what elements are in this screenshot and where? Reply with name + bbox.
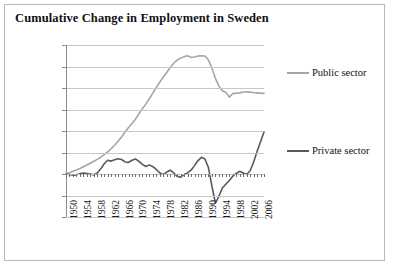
x-axis-minor-tick (104, 174, 105, 177)
x-axis-minor-tick (188, 174, 189, 177)
x-axis-tick-label: 1970 (138, 200, 148, 219)
x-axis-minor-tick (177, 174, 178, 177)
x-axis-minor-tick (247, 174, 248, 177)
legend-color-swatch (287, 72, 309, 74)
x-axis-tick-label: 1962 (111, 200, 121, 219)
x-axis-tick-label: 1950 (69, 200, 79, 219)
plot-area-wrapper: 120000010000008000006000004000002000000-… (66, 45, 264, 217)
x-axis-minor-tick (132, 174, 133, 177)
x-axis-minor-tick (167, 174, 168, 177)
gridline (66, 153, 264, 154)
y-axis-tick-mark (62, 153, 66, 154)
x-axis-minor-tick (184, 174, 185, 177)
gridline (66, 131, 264, 132)
legend-item[interactable]: Private sector (287, 145, 369, 156)
x-axis-minor-tick (125, 174, 126, 177)
x-axis-minor-tick (80, 174, 81, 177)
x-axis-tick-label: 1982 (180, 200, 190, 219)
series-line (66, 56, 264, 174)
y-axis-tick-mark (62, 67, 66, 68)
y-axis-tick-mark (62, 174, 66, 175)
x-axis-minor-tick (208, 174, 209, 177)
x-axis-tick-label: 1974 (152, 200, 162, 219)
x-axis-minor-tick (236, 174, 237, 177)
gridline (66, 217, 264, 218)
x-axis-minor-tick (97, 174, 98, 177)
x-axis-minor-tick (129, 174, 130, 177)
y-axis-line (66, 45, 67, 217)
x-axis-minor-tick (233, 174, 234, 177)
x-axis-minor-tick (90, 174, 91, 177)
y-axis-tick-mark (62, 110, 66, 111)
x-axis-minor-tick (250, 174, 251, 177)
x-axis-minor-tick (87, 174, 88, 177)
x-axis-minor-tick (195, 174, 196, 177)
y-axis-tick-mark (62, 196, 66, 197)
x-axis-minor-tick (66, 174, 67, 177)
x-axis-minor-tick (146, 174, 147, 177)
x-axis-minor-tick (219, 174, 220, 177)
x-axis-minor-tick (160, 174, 161, 177)
x-axis-minor-tick (101, 174, 102, 177)
x-axis-minor-tick (163, 174, 164, 177)
gridline (66, 88, 264, 89)
x-axis-minor-tick (139, 174, 140, 177)
x-axis-minor-tick (222, 174, 223, 177)
x-axis-minor-tick (264, 174, 265, 177)
legend-item[interactable]: Public sector (287, 67, 367, 78)
x-axis-tick-label: 1994 (222, 200, 232, 219)
x-axis-minor-tick (94, 174, 95, 177)
gridline (66, 110, 264, 111)
y-axis-tick-mark (62, 217, 66, 218)
x-axis-minor-tick (226, 174, 227, 177)
x-axis-minor-tick (111, 174, 112, 177)
x-axis-tick-label: 1966 (125, 200, 135, 219)
x-axis-minor-tick (135, 174, 136, 177)
x-axis-tick-label: 1990 (208, 200, 218, 219)
x-axis-minor-tick (83, 174, 84, 177)
x-axis-minor-tick (149, 174, 150, 177)
x-axis-minor-tick (212, 174, 213, 177)
x-axis-minor-tick (254, 174, 255, 177)
gridline (66, 45, 264, 46)
x-axis-minor-tick (243, 174, 244, 177)
y-axis-tick-mark (62, 131, 66, 132)
x-axis-tick-label: 1986 (194, 200, 204, 219)
x-axis-minor-tick (181, 174, 182, 177)
x-axis-minor-tick (261, 174, 262, 177)
x-axis-minor-tick (122, 174, 123, 177)
x-axis-minor-tick (174, 174, 175, 177)
x-axis-minor-tick (240, 174, 241, 177)
x-axis-tick-label: 1954 (83, 200, 93, 219)
x-axis-tick-label: 1978 (166, 200, 176, 219)
x-axis-minor-tick (118, 174, 119, 177)
chart-container: Cumulative Change in Employment in Swede… (4, 4, 385, 261)
x-axis-tick-label: 2002 (250, 200, 260, 219)
gridline (66, 67, 264, 68)
x-axis-minor-tick (115, 174, 116, 177)
legend-color-swatch (287, 150, 309, 152)
x-axis-minor-tick (73, 174, 74, 177)
series-line (66, 132, 264, 203)
x-axis-minor-tick (201, 174, 202, 177)
x-axis-minor-tick (229, 174, 230, 177)
legend-label: Public sector (312, 67, 367, 78)
x-axis-minor-tick (215, 174, 216, 177)
x-axis-minor-tick (108, 174, 109, 177)
x-axis-tick-label: 1958 (97, 200, 107, 219)
x-axis-minor-tick (142, 174, 143, 177)
gridline (66, 196, 264, 197)
plot-area (66, 45, 264, 217)
x-axis-minor-tick (153, 174, 154, 177)
x-axis-minor-tick (191, 174, 192, 177)
x-axis-minor-tick (205, 174, 206, 177)
x-axis-minor-tick (170, 174, 171, 177)
x-axis-minor-tick (257, 174, 258, 177)
x-axis-tick-label: 1998 (236, 200, 246, 219)
x-axis-tick-marks (66, 174, 264, 178)
x-axis-minor-tick (76, 174, 77, 177)
x-axis-minor-tick (198, 174, 199, 177)
legend-label: Private sector (312, 145, 369, 156)
x-axis-minor-tick (156, 174, 157, 177)
x-axis-tick-label: 2006 (264, 200, 274, 219)
